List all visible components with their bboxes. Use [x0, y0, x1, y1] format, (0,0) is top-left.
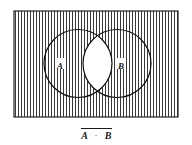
caption-operator: · — [95, 130, 98, 140]
circle-a-label: A — [56, 61, 63, 71]
caption-right-term: B — [104, 130, 112, 141]
circle-b-label: B — [117, 61, 124, 71]
venn-diagram-svg: A B A · B — [0, 0, 192, 145]
venn-diagram-figure: A B A · B — [0, 0, 192, 145]
shaded-region-complement — [14, 11, 178, 117]
caption-left-term: A — [80, 130, 88, 141]
